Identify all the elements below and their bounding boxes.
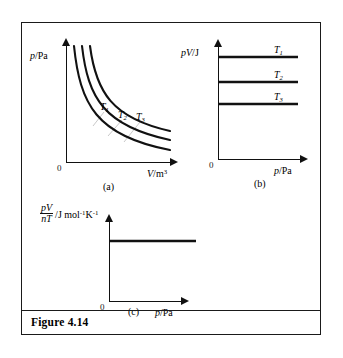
panel-a-curves bbox=[0, 0, 200, 200]
panel-a-tag: (a) bbox=[103, 181, 114, 192]
panel-b-t2-sub: 2 bbox=[280, 74, 283, 81]
panel-c-tag: (c) bbox=[128, 306, 139, 317]
panel-a-t1-sub: 1 bbox=[106, 106, 109, 113]
panel-b: 0 pV/J p/Pa T1 T2 T3 (b) bbox=[196, 0, 343, 200]
panel-a-label-t1: T1 bbox=[100, 101, 109, 113]
caption-divider bbox=[21, 310, 321, 311]
panel-a: 0 p/Pa V/m3 T1 T2 bbox=[0, 0, 200, 200]
panel-b-tag: (b) bbox=[254, 178, 266, 189]
panel-b-label-t1: T1 bbox=[274, 44, 283, 56]
panel-c-line bbox=[0, 196, 260, 316]
panel-c: 0 pV nT /J mol-1K-1 p/Pa (c) bbox=[0, 196, 260, 316]
panel-b-t1-sub: 1 bbox=[280, 49, 283, 56]
panel-b-lines bbox=[196, 0, 343, 200]
panel-b-t3-sub: 3 bbox=[280, 96, 283, 103]
panel-a-label-t2: T2 bbox=[118, 109, 127, 121]
panel-a-t3-sub: 3 bbox=[142, 116, 145, 123]
panel-a-t2-sub: 2 bbox=[124, 114, 127, 121]
panel-b-label-t2: T2 bbox=[274, 69, 283, 81]
figure-caption: Figure 4.14 bbox=[31, 316, 89, 328]
panel-b-y-symbol: pV bbox=[181, 47, 192, 58]
panel-b-label-t3: T3 bbox=[274, 91, 283, 103]
panel-a-label-t3: T3 bbox=[136, 111, 145, 123]
figure-root: 0 p/Pa V/m3 T1 T2 bbox=[0, 0, 343, 358]
